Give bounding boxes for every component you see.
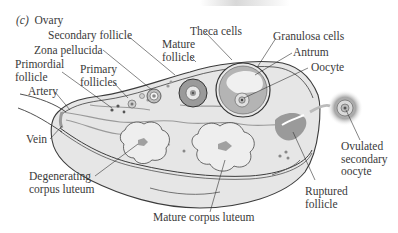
figure-title-text: Ovary bbox=[35, 14, 64, 26]
label-primary-follicles: Primary follicles bbox=[80, 63, 117, 88]
label-mature-follicle: Mature follicle bbox=[162, 38, 195, 63]
label-degenerating-corpus-luteum: Degenerating corpus luteum bbox=[29, 170, 94, 195]
label-zona-pellucida: Zona pellucida bbox=[34, 44, 103, 57]
label-artery: Artery bbox=[28, 85, 58, 98]
mature-follicle bbox=[179, 79, 207, 107]
secondary-follicle bbox=[147, 89, 161, 103]
panel-letter: (c) bbox=[16, 14, 29, 26]
label-ovulated-secondary-oocyte: Ovulated secondary oocyte bbox=[341, 140, 388, 178]
ovary-diagram: (c) Ovary Secondary follicle Zona pelluc… bbox=[0, 0, 398, 233]
figure-title: (c) Ovary bbox=[16, 14, 63, 27]
label-oocyte: Oocyte bbox=[311, 61, 344, 74]
label-vein: Vein bbox=[26, 133, 47, 146]
label-theca-cells: Theca cells bbox=[190, 25, 242, 38]
label-mature-corpus-luteum: Mature corpus luteum bbox=[153, 211, 255, 224]
label-antrum: Antrum bbox=[293, 46, 329, 59]
label-secondary-follicle: Secondary follicle bbox=[48, 29, 132, 42]
label-granulosa-cells: Granulosa cells bbox=[273, 30, 344, 43]
label-ruptured-follicle: Ruptured follicle bbox=[305, 185, 348, 210]
label-primordial-follicle: Primordial follicle bbox=[15, 58, 64, 83]
